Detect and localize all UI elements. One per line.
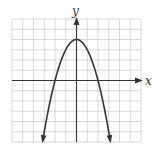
parabola-graph: x y	[0, 0, 156, 157]
y-axis-label: y	[71, 4, 79, 18]
axes	[12, 17, 143, 142]
x-axis-label: x	[145, 74, 152, 88]
x-axis-arrow-icon	[135, 78, 143, 84]
y-axis-arrow-icon	[74, 17, 80, 25]
